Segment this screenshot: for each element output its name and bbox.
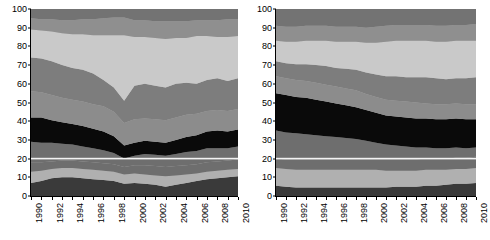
x-tick-mark (93, 197, 94, 200)
x-tick-label: 2002 (400, 203, 409, 223)
separator-line (31, 158, 238, 160)
x-tick-label: 1992 (56, 203, 65, 223)
area-band-band-10 (276, 9, 476, 28)
x-tick-mark (41, 197, 42, 200)
x-tick-mark (83, 197, 84, 200)
plot-area-right (276, 9, 476, 196)
x-tick-mark (386, 197, 387, 200)
plot-wrap-left: 0102030405060708090100 19901992199419961… (0, 0, 245, 240)
y-axis-right: 0102030405060708090100 (245, 0, 276, 240)
x-tick-label: 2006 (201, 203, 210, 223)
chart-panel-left: 0102030405060708090100 19901992199419961… (0, 0, 245, 240)
x-tick-label: 1998 (118, 203, 127, 223)
y-tick-label: 80 (17, 42, 27, 51)
x-tick-mark (296, 197, 297, 200)
x-tick-mark (466, 197, 467, 200)
y-tick-label: 70 (262, 61, 272, 70)
x-tick-mark (376, 197, 377, 200)
y-tick-label: 20 (17, 154, 27, 163)
y-tick-label: 50 (17, 98, 27, 107)
y-tick-label: 10 (262, 173, 272, 182)
plot-wrap-right: 0102030405060708090100 19901992199419961… (245, 0, 490, 240)
y-tick-label: 90 (17, 23, 27, 32)
x-tick-mark (396, 197, 397, 200)
y-tick-label: 60 (17, 79, 27, 88)
x-tick-mark (286, 197, 287, 200)
y-tick-label: 0 (267, 192, 272, 201)
x-tick-label: 1994 (76, 203, 85, 223)
x-tick-mark (166, 197, 167, 200)
x-tick-mark (238, 197, 239, 200)
x-tick-label: 2000 (380, 203, 389, 223)
y-axis-line-left (30, 9, 31, 197)
y-tick-label: 70 (17, 61, 27, 70)
x-tick-label: 2000 (139, 203, 148, 223)
x-tick-mark (114, 197, 115, 200)
x-tick-mark (72, 197, 73, 200)
stacked-area-svg (276, 9, 476, 196)
stacked-area-svg (31, 9, 238, 196)
x-tick-mark (155, 197, 156, 200)
y-tick-label: 30 (17, 135, 27, 144)
x-tick-mark (316, 197, 317, 200)
x-tick-label: 2004 (180, 203, 189, 223)
y-axis-line-right (275, 9, 276, 197)
y-axis-left: 0102030405060708090100 (0, 0, 31, 240)
x-tick-mark (476, 197, 477, 200)
x-tick-mark (186, 197, 187, 200)
x-axis-right: 1990199219941996199820002002200420062008… (276, 197, 476, 240)
y-tick-label: 50 (262, 98, 272, 107)
x-tick-mark (197, 197, 198, 200)
y-tick-label: 40 (262, 117, 272, 126)
x-tick-mark (356, 197, 357, 200)
x-tick-mark (176, 197, 177, 200)
y-tick-label: 90 (262, 23, 272, 32)
x-tick-label: 2006 (440, 203, 449, 223)
y-tick-label: 10 (17, 173, 27, 182)
x-tick-mark (145, 197, 146, 200)
y-tick-label: 0 (22, 192, 27, 201)
y-tick-label: 30 (262, 135, 272, 144)
x-tick-mark (62, 197, 63, 200)
x-tick-label: 2002 (159, 203, 168, 223)
y-tick-label: 60 (262, 79, 272, 88)
area-band-band-2 (276, 168, 476, 188)
x-tick-mark (336, 197, 337, 200)
x-tick-mark (228, 197, 229, 200)
x-tick-mark (346, 197, 347, 200)
x-tick-label: 2004 (420, 203, 429, 223)
x-tick-mark (456, 197, 457, 200)
separator-line (276, 158, 476, 160)
x-tick-label: 2008 (221, 203, 230, 223)
x-tick-mark (124, 197, 125, 200)
y-tick-label: 100 (257, 5, 272, 14)
y-tick-label: 100 (12, 5, 27, 14)
x-tick-mark (103, 197, 104, 200)
x-tick-mark (52, 197, 53, 200)
x-tick-mark (217, 197, 218, 200)
y-tick-label: 20 (262, 154, 272, 163)
x-tick-mark (326, 197, 327, 200)
x-tick-mark (416, 197, 417, 200)
x-tick-mark (306, 197, 307, 200)
x-tick-label: 1994 (320, 203, 329, 223)
y-tick-label: 80 (262, 42, 272, 51)
x-tick-label: 1990 (35, 203, 44, 223)
x-tick-label: 1990 (280, 203, 289, 223)
x-tick-label: 1996 (97, 203, 106, 223)
x-tick-mark (366, 197, 367, 200)
chart-panel-right: 0102030405060708090100 19901992199419961… (245, 0, 490, 240)
x-tick-label: 2008 (460, 203, 469, 223)
x-tick-label: 1998 (360, 203, 369, 223)
x-tick-mark (446, 197, 447, 200)
area-band-band-9 (276, 24, 476, 43)
x-tick-label: 1996 (340, 203, 349, 223)
x-tick-label: 1992 (300, 203, 309, 223)
area-band-band-10 (31, 9, 238, 21)
x-axis-left: 1990199219941996199820002002200420062008… (31, 197, 238, 240)
x-tick-mark (436, 197, 437, 200)
x-tick-mark (207, 197, 208, 200)
plot-area-left (31, 9, 238, 196)
figure-root: 0102030405060708090100 19901992199419961… (0, 0, 490, 240)
x-tick-mark (406, 197, 407, 200)
